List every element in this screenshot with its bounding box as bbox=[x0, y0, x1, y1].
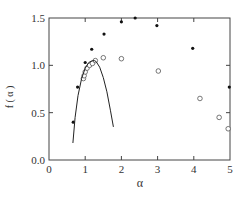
open-data-point bbox=[101, 55, 106, 60]
filled-data-point bbox=[191, 47, 194, 50]
plot-border bbox=[49, 18, 230, 160]
fitted-curve-line bbox=[73, 61, 114, 143]
filled-data-point bbox=[90, 48, 93, 51]
filled-data-point bbox=[134, 16, 137, 19]
open-data-point bbox=[217, 115, 222, 120]
filled-data-point bbox=[84, 61, 87, 64]
open-data-point bbox=[119, 56, 124, 61]
y-tick-label: 0.0 bbox=[31, 154, 45, 166]
y-tick-label: 1.0 bbox=[31, 59, 45, 71]
filled-data-point bbox=[228, 86, 231, 89]
data-series bbox=[72, 16, 231, 143]
x-tick-label: 0 bbox=[46, 163, 52, 175]
filled-data-point bbox=[102, 32, 105, 35]
multifractal-spectrum-chart: 0123450.00.51.01.5 α f ( α ) bbox=[0, 0, 247, 197]
y-tick-label: 0.5 bbox=[31, 107, 45, 119]
filled-data-point bbox=[155, 24, 158, 27]
open-data-point bbox=[198, 96, 203, 101]
open-data-point bbox=[156, 69, 161, 74]
filled-data-point bbox=[120, 20, 123, 23]
open-data-point bbox=[226, 126, 231, 131]
y-tick-label: 1.5 bbox=[31, 12, 45, 24]
plot-frame bbox=[49, 18, 230, 160]
axis-ticks: 0123450.00.51.01.5 bbox=[31, 12, 233, 175]
x-tick-label: 4 bbox=[191, 163, 197, 175]
x-tick-label: 1 bbox=[82, 163, 88, 175]
x-tick-label: 2 bbox=[119, 163, 125, 175]
y-axis-label: f ( α ) bbox=[4, 86, 16, 109]
x-axis-label: α bbox=[137, 176, 144, 190]
x-tick-label: 3 bbox=[155, 163, 161, 175]
x-tick-label: 5 bbox=[227, 163, 233, 175]
filled-data-point bbox=[76, 86, 79, 89]
